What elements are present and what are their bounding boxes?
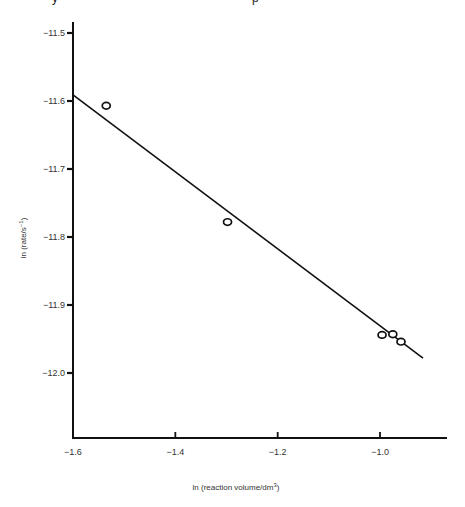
data-point-marker: [224, 219, 232, 226]
axes: [72, 22, 447, 438]
tick-marks: −11.5−11.6−11.7−11.8−11.9−12.0−1.6−1.4−1…: [42, 28, 389, 457]
y-tick-label: −11.6: [43, 96, 65, 106]
x-tick-label: −1.4: [166, 447, 184, 457]
cropped-caption-fragment: y: [52, 0, 58, 5]
data-point-marker: [378, 332, 386, 339]
y-axis-title: ln (rate/s−1): [18, 217, 28, 258]
fit-line: [73, 95, 423, 358]
data-point-marker: [102, 102, 110, 109]
y-tick-label: −11.8: [43, 232, 65, 242]
data-point-marker: [389, 331, 397, 338]
x-tick-label: −1.2: [269, 447, 287, 457]
y-tick-label: −11.7: [43, 164, 65, 174]
x-axis-title: ln (reaction volume/dm3): [193, 482, 280, 492]
y-tick-label: −11.5: [43, 28, 65, 38]
x-tick-label: −1.6: [64, 447, 82, 457]
y-tick-label: −12.0: [42, 368, 65, 378]
cropped-caption-fragment: p: [252, 0, 259, 5]
y-tick-label: −11.9: [43, 300, 65, 310]
data-point-marker: [397, 338, 405, 345]
scatter-plot: −11.5−11.6−11.7−11.8−11.9−12.0−1.6−1.4−1…: [0, 0, 465, 507]
chart-container: y p −11.5−11.6−11.7−11.8−11.9−12.0−1.6−1…: [0, 0, 465, 507]
regression-line: [73, 95, 423, 358]
data-points: [102, 102, 405, 345]
x-tick-label: −1.0: [371, 447, 389, 457]
